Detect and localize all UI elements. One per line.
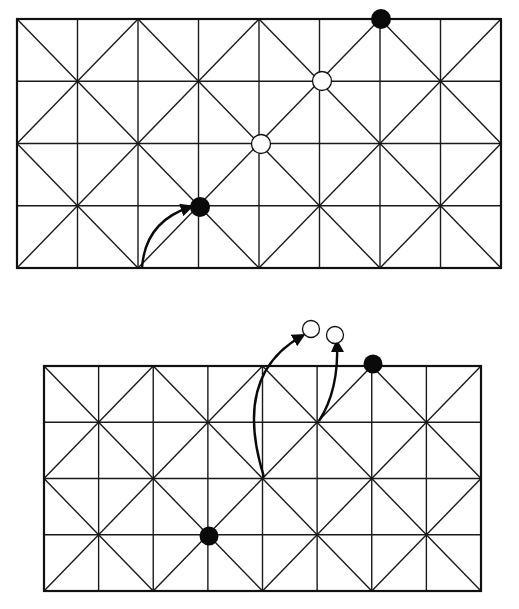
move-arrow-icon [319, 343, 337, 421]
bottom-game-board [44, 321, 481, 592]
board-grid-lines [44, 366, 481, 591]
top-game-board [17, 9, 501, 268]
black-stone [200, 527, 219, 546]
white-stone [252, 135, 271, 154]
move-arrow-icon [142, 207, 190, 268]
black-stone [190, 197, 210, 217]
black-stone [364, 355, 383, 374]
white-stone [313, 72, 332, 91]
white-stone [327, 327, 344, 344]
board-diagram [0, 0, 519, 609]
white-stone [303, 321, 320, 338]
move-arrow-icon [254, 336, 302, 477]
black-stone [371, 9, 391, 29]
